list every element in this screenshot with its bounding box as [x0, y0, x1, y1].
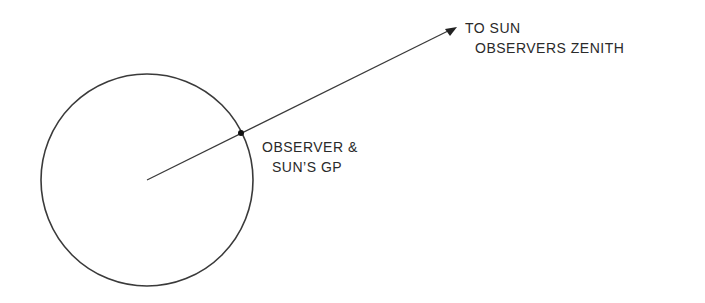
observer-point — [238, 130, 244, 136]
to-sun-label: TO SUN — [465, 19, 521, 37]
observers-zenith-label: OBSERVERS ZENITH — [475, 39, 624, 57]
suns-gp-label: SUN’S GP — [272, 158, 342, 176]
arrowhead-icon — [445, 27, 457, 36]
observer-label: OBSERVER & — [262, 138, 358, 156]
